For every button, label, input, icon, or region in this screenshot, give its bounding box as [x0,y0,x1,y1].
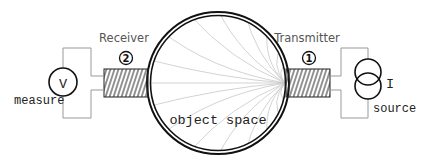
emt-diagram: object space V measure I source Receiver… [0,0,425,161]
current-source-icon [355,59,381,99]
measure-label: measure [14,94,64,108]
voltmeter-symbol: V [59,77,68,92]
current-symbol: I [386,77,394,92]
transmitter-coil [286,69,330,97]
receiver-label: Receiver [99,31,149,45]
source-label: source [373,102,416,116]
receiver-coil [104,69,148,97]
receiver-number: 2 [123,53,130,64]
transmitter-number: 1 [306,53,313,64]
object-space-label: object space [169,113,266,128]
transmitter-label: Transmitter [273,31,340,45]
